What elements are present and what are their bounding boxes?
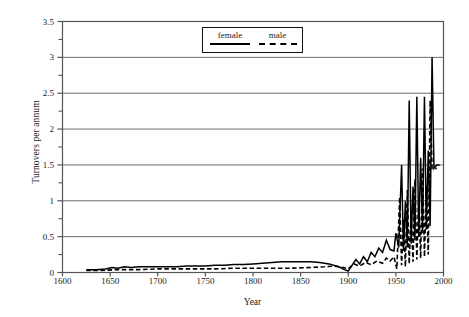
x-tick-label: 1600 <box>54 277 72 286</box>
x-tick-label: 1750 <box>196 277 214 286</box>
gridlines <box>63 22 444 237</box>
chart-container: Turnovers per annum 00.511.522.533.5 160… <box>0 0 469 317</box>
axis-major-ticks <box>58 22 444 277</box>
x-tick-label: 1700 <box>149 277 167 286</box>
legend-swatch-male-dashed-line <box>259 43 297 45</box>
x-tick-label: 1850 <box>292 277 310 286</box>
x-tick-label: 1650 <box>101 277 119 286</box>
x-tick-label: 1950 <box>387 277 405 286</box>
legend-entry-male: male <box>255 29 300 45</box>
x-tick-label: 2000 <box>435 277 453 286</box>
plot-frame <box>63 22 444 273</box>
series-line-female <box>86 57 439 271</box>
x-axis-title: Year <box>62 297 443 307</box>
chart-legend: female male <box>202 27 303 53</box>
x-tick-label: 1800 <box>244 277 262 286</box>
x-tick-label: 1900 <box>339 277 357 286</box>
legend-label-female: female <box>207 29 253 42</box>
legend-label-male: male <box>255 29 300 42</box>
legend-swatch-female-solid-line <box>210 43 250 45</box>
legend-entry-female: female <box>207 29 253 45</box>
